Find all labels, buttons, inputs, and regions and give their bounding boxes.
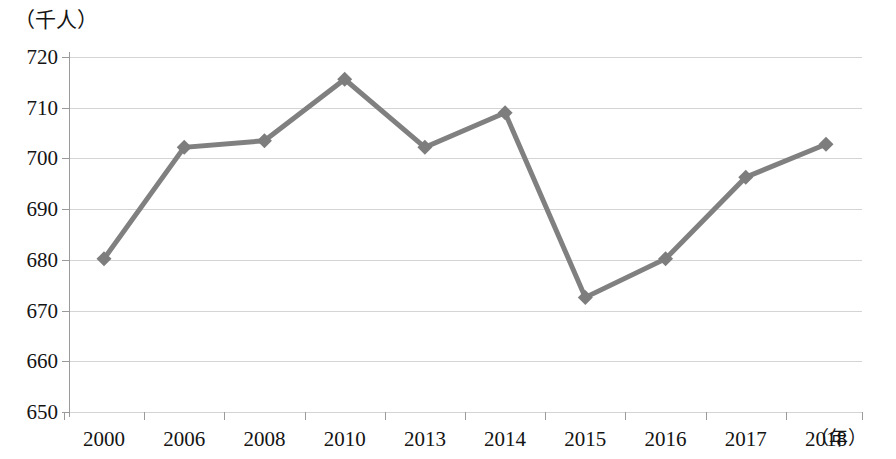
y-axis-tick xyxy=(62,158,70,159)
x-axis-tick xyxy=(545,412,546,420)
y-axis-tick xyxy=(62,57,70,58)
x-axis-tick xyxy=(465,412,466,420)
x-axis-tick xyxy=(305,412,306,420)
data-series-layer xyxy=(0,0,896,459)
y-axis-tick xyxy=(62,260,70,261)
x-axis-tick xyxy=(786,412,787,420)
x-axis-tick xyxy=(224,412,225,420)
y-axis-tick xyxy=(62,311,70,312)
line-chart: （千人） 650660670680690700710720 2000200620… xyxy=(0,0,896,459)
x-axis-tick xyxy=(706,412,707,420)
data-point-marker xyxy=(498,105,513,120)
series-line xyxy=(104,79,826,297)
data-point-marker xyxy=(819,137,834,152)
x-axis-tick xyxy=(625,412,626,420)
y-axis-tick xyxy=(62,108,70,109)
series-markers xyxy=(97,72,834,305)
y-axis-tick xyxy=(62,209,70,210)
y-axis-tick xyxy=(62,361,70,362)
x-axis-tick xyxy=(64,412,65,420)
x-axis-tick xyxy=(144,412,145,420)
x-axis-tick xyxy=(862,412,863,420)
x-axis-tick xyxy=(385,412,386,420)
